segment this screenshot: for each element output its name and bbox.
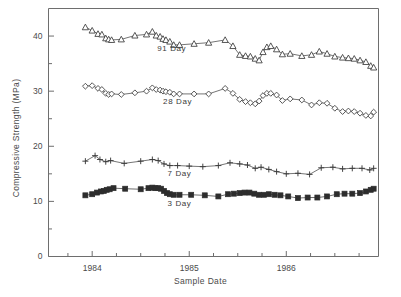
x-tick-label: 1986 bbox=[266, 263, 306, 273]
y-axis-title: Compressive Strength (MPa) bbox=[11, 58, 21, 218]
y-tick-label: 30 bbox=[17, 86, 43, 96]
x-tick-label: 1985 bbox=[169, 263, 209, 273]
y-tick-label: 0 bbox=[17, 251, 43, 261]
plot-frame bbox=[49, 9, 379, 257]
series-label-28-day: 28 Day bbox=[148, 97, 208, 106]
chart-figure: Compressive Strength (MPa) Sample Date 0… bbox=[0, 0, 401, 297]
x-tick-label: 1984 bbox=[72, 263, 112, 273]
series-3-day bbox=[83, 185, 376, 200]
series-label-3-day: 3 Day bbox=[150, 199, 210, 208]
series-7-day bbox=[82, 153, 376, 178]
x-axis-title: Sample Date bbox=[0, 276, 401, 286]
series-28-day bbox=[82, 83, 376, 119]
x-axis-ticks bbox=[68, 251, 359, 257]
series-label-7-day: 7 Day bbox=[150, 169, 210, 178]
y-tick-label: 20 bbox=[17, 141, 43, 151]
y-tick-label: 40 bbox=[17, 31, 43, 41]
y-axis-ticks bbox=[49, 36, 55, 256]
series-91-day bbox=[82, 24, 376, 70]
series-label-91-day: 91 Day bbox=[142, 44, 202, 53]
y-tick-label: 10 bbox=[17, 196, 43, 206]
